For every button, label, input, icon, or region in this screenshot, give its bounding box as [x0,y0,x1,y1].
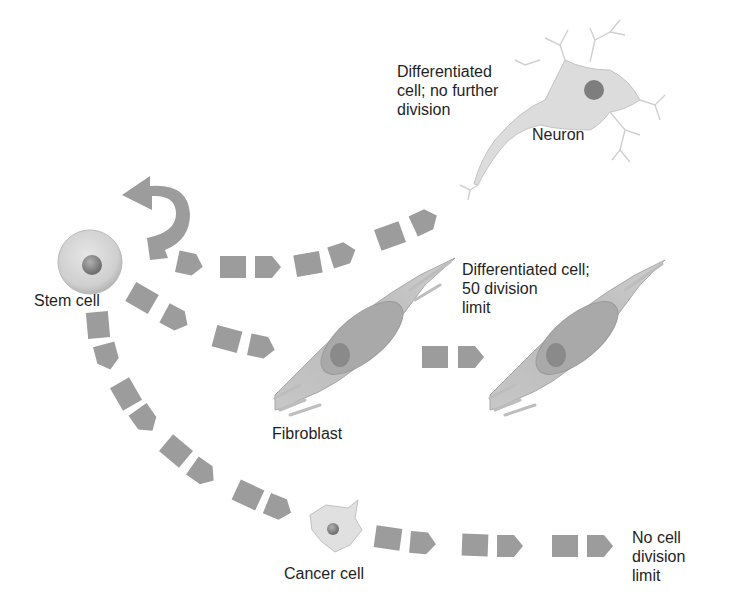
fibroblast-note-label: Differentiated cell; 50 division limit [462,260,590,317]
fibroblast-cell [275,258,455,415]
fibroblast-division-arrow-icon [422,346,484,368]
cancer-cell-label: Cancer cell [284,564,364,583]
pathway-arrow-to-neuron-icon [175,206,441,278]
neuron-label: Neuron [532,125,584,144]
fibroblast-label: Fibroblast [272,424,342,443]
stem-cell [58,230,122,294]
pathway-arrow-to-fibroblast-icon [125,282,277,360]
cancer-division-arrow-icon [374,525,613,557]
cell-division-diagram [0,0,732,611]
self-renewal-arrow-icon [122,176,190,260]
cancer-note-label: No cell division limit [632,528,685,585]
stem-cell-label: Stem cell [34,291,100,310]
neuron-note-label: Differentiated cell; no further division [397,62,498,119]
cancer-cell [310,500,362,552]
